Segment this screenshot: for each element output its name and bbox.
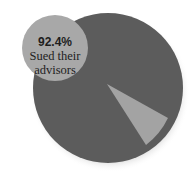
slice-label-line1: Sued their <box>22 49 88 63</box>
slice-percentage: 92.4% <box>22 35 88 49</box>
slice-label-line2: advisors <box>22 63 88 77</box>
slice-annotation: 92.4% Sued their advisors <box>22 35 88 77</box>
pie-chart <box>0 0 194 179</box>
